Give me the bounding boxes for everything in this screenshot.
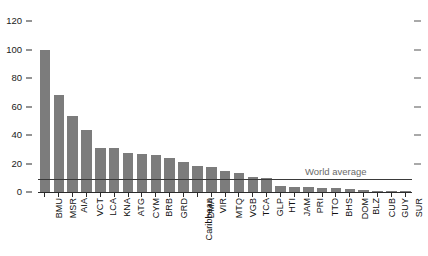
bar[interactable] bbox=[109, 148, 120, 192]
bar[interactable] bbox=[40, 50, 51, 193]
y-axis-tick-label: 40 bbox=[11, 130, 22, 140]
x-axis-label-slot: GRD bbox=[163, 198, 177, 256]
y-axis-tick-label: 0 bbox=[17, 187, 22, 197]
x-axis-tick bbox=[183, 193, 184, 197]
x-axis-label-slot: AIA bbox=[66, 198, 80, 256]
bar-slot bbox=[371, 21, 385, 192]
x-axis-tick-slot bbox=[52, 193, 66, 197]
bar[interactable] bbox=[151, 155, 162, 192]
x-axis-label-slot: JAM bbox=[287, 198, 301, 256]
x-axis-tick-slot bbox=[66, 193, 80, 197]
x-axis-tick-slot bbox=[343, 193, 357, 197]
x-axis-tick bbox=[169, 193, 170, 197]
x-axis-label-slot: BLZ bbox=[357, 198, 371, 256]
bar-slot bbox=[135, 21, 149, 192]
x-axis-tick-slot bbox=[190, 193, 204, 197]
x-axis-tick bbox=[100, 193, 101, 197]
bar[interactable] bbox=[54, 95, 65, 192]
x-axis-label-slot: VCT bbox=[80, 198, 94, 256]
y-axis-tick-label: 120 bbox=[6, 16, 22, 26]
x-axis-label-slot: PRI bbox=[301, 198, 315, 256]
bar[interactable] bbox=[123, 153, 134, 192]
x-axis-tick-slot bbox=[301, 193, 315, 197]
x-axis-tick-slot bbox=[163, 193, 177, 197]
bar-slot bbox=[177, 21, 191, 192]
bar-slot bbox=[274, 21, 288, 192]
x-axis-label-slot: BHS bbox=[329, 198, 343, 256]
x-axis-tick-slot bbox=[218, 193, 232, 197]
x-axis-tick bbox=[294, 193, 295, 197]
bar-slot bbox=[260, 21, 274, 192]
x-axis-tick bbox=[349, 193, 350, 197]
x-axis-label-slot: KNA bbox=[107, 198, 121, 256]
x-axis-label-slot: DOM bbox=[343, 198, 357, 256]
world-average-label: World average bbox=[305, 167, 367, 177]
x-axis-tick bbox=[252, 193, 253, 197]
x-axis-tick bbox=[72, 193, 73, 197]
y-axis-tick-label: 20 bbox=[11, 159, 22, 169]
bar[interactable] bbox=[137, 154, 148, 192]
bar[interactable] bbox=[164, 158, 175, 192]
x-axis-tick bbox=[308, 193, 309, 197]
x-axis-tick-slot bbox=[246, 193, 260, 197]
y-axis-tick bbox=[26, 163, 32, 164]
bar-slot bbox=[232, 21, 246, 192]
bar[interactable] bbox=[95, 148, 106, 192]
x-axis-tick bbox=[266, 193, 267, 197]
bar-chart: 020406080100120 World average BMUMSRAIAV… bbox=[0, 0, 428, 256]
y-axis-labels: 020406080100120 bbox=[0, 0, 22, 256]
x-axis-tick bbox=[155, 193, 156, 197]
bar-slot bbox=[163, 21, 177, 192]
right-axis-tick bbox=[414, 106, 421, 107]
x-axis-tick bbox=[58, 193, 59, 197]
x-axis-tick-slot bbox=[135, 193, 149, 197]
x-axis-tick bbox=[391, 193, 392, 197]
x-axis-tick bbox=[335, 193, 336, 197]
bar[interactable] bbox=[67, 116, 78, 192]
x-axis-tick bbox=[238, 193, 239, 197]
x-axis-tick bbox=[197, 193, 198, 197]
bar-slot bbox=[218, 21, 232, 192]
y-axis-tick bbox=[26, 192, 32, 193]
x-axis-tick bbox=[211, 193, 212, 197]
x-axis-tick-slot bbox=[177, 193, 191, 197]
right-axis-tick bbox=[414, 21, 421, 22]
x-axis-label-slot: BMU bbox=[38, 198, 52, 256]
x-axis-tick bbox=[86, 193, 87, 197]
y-axis-tick-label: 80 bbox=[11, 73, 22, 83]
right-axis-tick bbox=[414, 163, 421, 164]
y-axis-tick-label: 60 bbox=[11, 102, 22, 112]
x-axis-label-slot: SUR bbox=[398, 198, 412, 256]
y-axis-tick bbox=[26, 78, 32, 79]
x-axis-labels: BMUMSRAIAVCTLCAKNAATGCYMBRBGRDCaribbeanD… bbox=[38, 198, 412, 256]
y-axis-tick bbox=[26, 49, 32, 50]
x-axis-tick-slot bbox=[357, 193, 371, 197]
y-axis-tick bbox=[26, 135, 32, 136]
bar[interactable] bbox=[234, 173, 245, 192]
bar-slot bbox=[287, 21, 301, 192]
bar-slot bbox=[149, 21, 163, 192]
x-axis-tick bbox=[280, 193, 281, 197]
x-axis-tick-slot bbox=[260, 193, 274, 197]
x-axis-tick-slot bbox=[38, 193, 52, 197]
x-axis-label-slot: VGB bbox=[232, 198, 246, 256]
x-axis-tick-slot bbox=[121, 193, 135, 197]
x-axis-label-slot: LCA bbox=[93, 198, 107, 256]
bar-slot bbox=[93, 21, 107, 192]
x-axis-label-slot: GLP bbox=[260, 198, 274, 256]
right-axis-tick bbox=[414, 78, 421, 79]
x-axis-tick bbox=[405, 193, 406, 197]
right-axis-tick bbox=[414, 135, 421, 136]
bar[interactable] bbox=[220, 171, 231, 192]
x-axis-tick-slot bbox=[329, 193, 343, 197]
bar[interactable] bbox=[81, 130, 92, 192]
bar-slot bbox=[190, 21, 204, 192]
bar[interactable] bbox=[178, 162, 189, 192]
x-axis-tick bbox=[114, 193, 115, 197]
x-axis-label-slot: ATG bbox=[121, 198, 135, 256]
x-axis-tick bbox=[225, 193, 226, 197]
x-axis-label-slot: TTO bbox=[315, 198, 329, 256]
x-axis-label-slot: Caribbean bbox=[177, 198, 191, 256]
x-axis-label-slot: MSR bbox=[52, 198, 66, 256]
bar-slot bbox=[384, 21, 398, 192]
